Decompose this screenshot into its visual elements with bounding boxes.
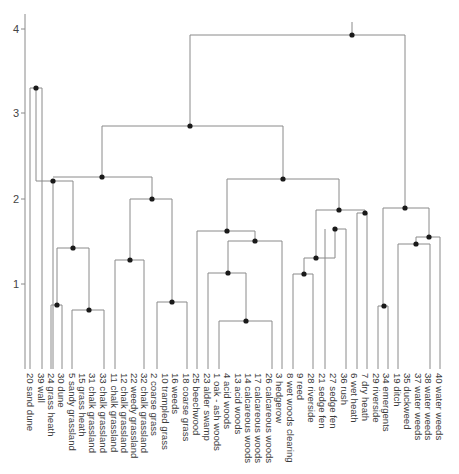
leaf-label: 24 grass heath bbox=[46, 373, 57, 436]
leaf-label: 21 sedge fen bbox=[317, 373, 328, 428]
leaf-label: 13 acid woods bbox=[233, 373, 244, 435]
leaf-label: 29 riverside bbox=[371, 373, 382, 423]
leaf-label: 9 reed bbox=[295, 373, 306, 400]
leaf-label: 30 dune bbox=[56, 373, 67, 408]
leaf-label: 31 chalk grassland bbox=[87, 373, 98, 453]
leaf-label: 14 calcareous woods bbox=[243, 373, 254, 463]
dendrogram-branches bbox=[30, 22, 440, 369]
leaf-label: 5 sandy grassland bbox=[67, 373, 78, 451]
leaf-label: 11 chalk grassland bbox=[109, 373, 120, 452]
leaf-label: 32 chalk grassland bbox=[139, 373, 150, 453]
leaf-label: 25 beechwood bbox=[191, 373, 202, 435]
y-tick-3: 3 bbox=[13, 107, 19, 119]
leaf-label: 40 water weeds bbox=[434, 373, 445, 440]
leaf-label: 27 sedge fen bbox=[328, 373, 339, 428]
leaf-label: 33 chalk grassland bbox=[98, 373, 109, 453]
leaf-label: 8 wet woods clearing bbox=[285, 373, 296, 463]
leaf-label: 23 alder swamp bbox=[202, 373, 213, 441]
leaf-label: 15 grass heath bbox=[77, 373, 88, 436]
leaf-label: 34 emergents bbox=[381, 373, 392, 432]
y-tick-4: 4 bbox=[13, 23, 19, 35]
leaf-label: 22 weedy grassland bbox=[129, 373, 140, 458]
leaf-label: 17 calcareous woods bbox=[253, 373, 264, 463]
y-axis: 4 3 2 1 bbox=[13, 14, 25, 369]
leaf-label: 36 rush bbox=[339, 373, 350, 405]
leaf-label: 39 wall bbox=[36, 373, 47, 403]
leaf-label: 3 hedgerow bbox=[274, 373, 285, 423]
leaf-label: 37 water weeds bbox=[413, 373, 424, 440]
y-tick-1: 1 bbox=[13, 278, 19, 290]
dendrogram-nodes bbox=[33, 32, 431, 323]
leaf-label: 2 coarse grass bbox=[149, 373, 160, 436]
leaf-label: 26 calcareous woods bbox=[264, 373, 275, 463]
leaf-label: 35 duckweed bbox=[402, 373, 413, 430]
dendrogram-chart: 4 3 2 1 bbox=[0, 0, 459, 474]
leaf-label: 19 ditch bbox=[392, 373, 403, 407]
leaf-label: 6 wet heath bbox=[349, 373, 360, 423]
leaf-label: 38 water weeds bbox=[423, 373, 434, 440]
leaf-label: 1 oak - ash woods bbox=[212, 373, 223, 451]
leaf-label: 16 weeds bbox=[170, 373, 181, 414]
y-tick-2: 2 bbox=[13, 193, 19, 205]
leaf-labels: 20 sand dune 39 wall 24 grass heath 30 d… bbox=[25, 373, 445, 463]
leaf-label: 4 acid woods bbox=[222, 373, 233, 429]
leaf-label: 7 dry heath bbox=[360, 373, 371, 421]
leaf-label: 20 sand dune bbox=[25, 373, 36, 431]
leaf-label: 28 riverside bbox=[306, 373, 317, 423]
leaf-label: 18 coarse grass bbox=[181, 373, 192, 441]
leaf-label: 12 chalk grassland bbox=[119, 373, 130, 453]
leaf-label: 10 trampled grass bbox=[160, 373, 171, 450]
